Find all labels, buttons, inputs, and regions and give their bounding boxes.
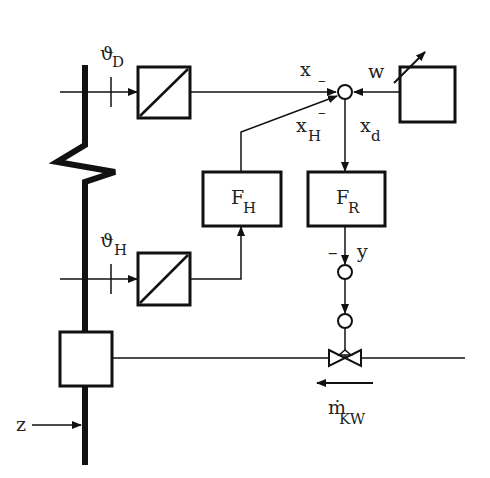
actuator-circle-1	[338, 265, 352, 279]
xh-subscript: H	[308, 127, 321, 145]
fr-subscript: R	[348, 199, 360, 217]
theta-h-signal	[60, 264, 137, 294]
xh-minus-sign: –	[318, 103, 326, 121]
mkw-subscript: KW	[339, 410, 366, 428]
setpoint-block	[394, 52, 455, 122]
theta-d-subscript: D	[112, 53, 124, 71]
transducer-h-block	[138, 253, 190, 305]
theta-h-to-fh-line	[190, 227, 241, 279]
fh-subscript: H	[243, 199, 256, 217]
theta-h-subscript: H	[114, 241, 127, 259]
actuator-circle-2	[338, 314, 352, 328]
theta-h-label: ϑ	[100, 229, 114, 251]
xh-label: x	[296, 114, 307, 136]
z-label: z	[16, 413, 26, 435]
plant-block	[60, 332, 112, 386]
x-minus-sign: –	[318, 71, 326, 89]
w-label: w	[368, 60, 385, 82]
valve-icon	[329, 350, 361, 366]
diagram-canvas: ϑ D x – – w x d x H F H F R ϑ H –	[0, 0, 490, 478]
x-label: x	[300, 58, 311, 80]
control-diagram: ϑ D x – – w x d x H F H F R ϑ H –	[0, 0, 490, 478]
summing-junction	[338, 85, 352, 99]
xd-label: x	[360, 114, 371, 136]
xd-subscript: d	[371, 127, 381, 145]
theta-d-signal	[60, 77, 137, 107]
y-label: y	[356, 240, 368, 262]
y-minus-sign: –	[328, 241, 338, 263]
transducer-d-block	[138, 67, 190, 118]
process-pipe	[57, 65, 115, 465]
